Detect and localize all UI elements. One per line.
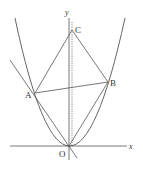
segment-ac — [35, 30, 72, 93]
diagram: x y A B C O — [0, 0, 143, 172]
label-c: C — [75, 25, 81, 35]
label-b: B — [110, 78, 116, 88]
segment-ab — [35, 82, 108, 93]
line-ao — [10, 60, 77, 158]
segment-cb — [72, 30, 108, 82]
parabola — [15, 18, 125, 146]
y-axis-label: y — [64, 8, 69, 17]
label-a: A — [25, 90, 32, 100]
segment-ob — [69, 82, 108, 146]
x-axis-label: x — [128, 142, 133, 151]
label-origin: O — [59, 149, 66, 159]
